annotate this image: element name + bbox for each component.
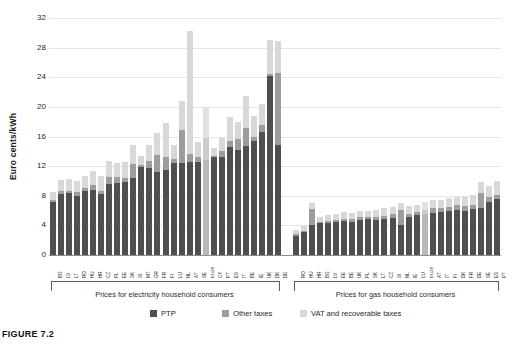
x-axis-tick-label: RO	[81, 271, 86, 278]
bar-segment-ptp	[430, 213, 436, 255]
x-axis-tick-label: SE	[202, 272, 207, 278]
x-axis-tick-label: EU28	[429, 267, 434, 278]
y-axis-tick-label: 32	[30, 14, 46, 22]
bar-segment-other	[179, 130, 185, 163]
bar-segment-ptp	[171, 163, 177, 255]
bar-segment-ptp	[267, 76, 273, 255]
bar-segment-other	[171, 159, 177, 163]
bar-segment-ptp	[293, 236, 299, 255]
x-axis-tick-label: PL	[113, 272, 118, 278]
legend-label: VAT and recoverable taxes	[311, 309, 401, 318]
bar-segment-vat	[179, 101, 185, 130]
y-axis-tick-label: 24	[30, 73, 46, 81]
bar-segment-other	[90, 185, 96, 189]
bar-segment-other	[390, 214, 396, 218]
y-axis-label-text: Euro cents/kWh	[8, 166, 18, 180]
bar-segment-ptp	[398, 225, 404, 255]
bar-segment-ptp	[454, 210, 460, 255]
x-axis-tick-label: CZ	[105, 272, 110, 278]
bar-segment-other	[211, 156, 217, 157]
bar-segment-vat	[98, 176, 104, 192]
bar-segment-vat	[58, 180, 64, 191]
bar-segment-other	[349, 219, 355, 222]
bar-segment-vat	[406, 206, 412, 213]
legend-item-vat: VAT and recoverable taxes	[300, 307, 401, 319]
bar-segment-vat	[195, 142, 201, 157]
bar-segment-ptp	[187, 162, 193, 255]
bar-segment-ptp	[349, 222, 355, 255]
bar-segment-other	[122, 178, 128, 182]
bar-segment-other	[187, 154, 193, 162]
x-axis-tick-label: HR	[316, 271, 321, 278]
bar-segment-ptp	[243, 146, 249, 255]
bar-segment-vat	[259, 104, 265, 125]
x-axis-tick-label: UK	[356, 272, 361, 278]
bar-segment-vat	[357, 211, 363, 218]
bar-segment-ptp	[154, 172, 160, 255]
bar-segment-other	[98, 191, 104, 194]
bar-segment-vat	[211, 148, 217, 155]
x-axis-tick-label: LV	[65, 273, 70, 278]
bar-segment-other	[203, 138, 209, 160]
bar-segment-ptp	[317, 223, 323, 255]
bar-segment-vat	[317, 217, 323, 222]
bar-segment-ptp	[227, 147, 233, 255]
bar-segment-other	[58, 191, 64, 193]
bar-segment-other	[154, 155, 160, 172]
x-axis-tick-label: SK	[129, 272, 134, 278]
bar-segment-other	[478, 193, 484, 208]
bar-segment-ptp	[309, 225, 315, 255]
bar-segment-vat	[154, 133, 160, 155]
bar-segment-other	[195, 157, 201, 163]
bar-segment-other	[235, 139, 241, 150]
bar-segment-other	[494, 195, 500, 199]
x-axis-tick-label: AT	[437, 272, 442, 278]
y-axis-tick-label: 28	[30, 44, 46, 52]
bar-segment-vat	[454, 197, 460, 206]
bar-segment-other	[470, 205, 476, 209]
x-axis-tick-label: EE	[121, 272, 126, 278]
bar-segment-other	[50, 200, 56, 202]
x-axis-tick-label: LU	[421, 272, 426, 278]
x-axis-tick-label: SI	[397, 274, 402, 278]
x-axis-tick-label: HR	[97, 271, 102, 278]
bar-segment-vat	[203, 107, 209, 138]
bar-segment-other	[114, 177, 120, 183]
bar-segment-vat	[373, 210, 379, 217]
bar-segment-other	[446, 207, 452, 211]
bar-segment-other	[325, 221, 331, 223]
bar-segment-vat	[171, 145, 177, 159]
bar-segment-vat	[390, 207, 396, 214]
bar-segment-ptp	[98, 194, 104, 255]
bar-segment-ptp	[195, 162, 201, 255]
bar-segment-vat	[494, 181, 500, 195]
bar-segment-ptp	[373, 220, 379, 255]
x-axis-tick-label: CZ	[389, 272, 394, 278]
bar-segment-other	[357, 217, 363, 220]
bar-segment-vat	[438, 200, 444, 208]
bar-segment-other	[267, 74, 273, 75]
x-axis-tick-label: NL	[186, 272, 191, 278]
bar-segment-vat	[227, 117, 233, 141]
x-axis-tick-label: HU	[308, 271, 313, 278]
group-bracket-label: Prices for gas household consumers	[294, 290, 497, 299]
bar-segment-vat	[74, 181, 80, 192]
bar-segment-vat	[478, 182, 484, 193]
bar-segment-vat	[122, 162, 128, 178]
x-axis-tick-label: ES	[493, 272, 498, 278]
x-axis-tick-label: FR	[162, 272, 167, 278]
bar-segment-vat	[462, 197, 468, 206]
bar-segment-vat	[50, 192, 56, 200]
bar-segment-other	[333, 220, 339, 222]
x-axis-line	[49, 255, 501, 256]
bar-segment-vat	[235, 122, 241, 138]
bar-segment-ptp	[325, 223, 331, 255]
x-axis-tick-label: IT	[445, 274, 450, 278]
bar-segment-vat	[187, 31, 193, 154]
bar-segment-other	[486, 197, 492, 201]
bar-segment-ptp	[82, 191, 88, 255]
x-axis-tick-label: RO	[300, 271, 305, 278]
bar-segment-ptp	[146, 168, 152, 255]
bar-segment-ptp	[138, 167, 144, 255]
bar-segment-vat	[470, 195, 476, 205]
